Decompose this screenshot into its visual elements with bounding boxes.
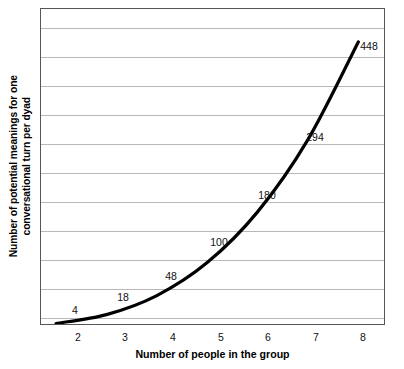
y-axis-title: Number of potential meanings for one con… <box>0 0 40 333</box>
point-value-label: 448 <box>360 40 378 52</box>
y-axis-title-line-2: conversational turn per dyad <box>20 75 33 257</box>
x-axis-tick-label: 8 <box>360 331 366 343</box>
data-curve-svg <box>41 9 385 325</box>
chart-figure: Number of potential meanings for one con… <box>0 0 404 369</box>
series-line-potential-meanings <box>56 42 358 323</box>
x-axis-tick-label: 6 <box>265 331 271 343</box>
x-axis-tick-label: 2 <box>75 331 81 343</box>
point-value-label: 4 <box>72 304 78 316</box>
x-axis-tick-labels: 2345678 <box>40 331 385 347</box>
y-axis-title-line-1: Number of potential meanings for one <box>7 75 20 257</box>
point-value-label: 100 <box>210 236 228 248</box>
x-axis-tick-label: 3 <box>122 331 128 343</box>
y-axis-title-text: Number of potential meanings for one con… <box>7 75 33 257</box>
point-value-label: 48 <box>165 270 177 282</box>
x-axis-tick-label: 5 <box>218 331 224 343</box>
point-value-label: 180 <box>258 189 276 201</box>
x-axis-tick-label: 4 <box>170 331 176 343</box>
plot-area: 41848100180294448 <box>40 8 385 325</box>
point-value-label: 294 <box>306 131 324 143</box>
x-axis-tick-label: 7 <box>313 331 319 343</box>
point-value-label: 18 <box>117 291 129 303</box>
x-axis-title: Number of people in the group <box>40 348 385 360</box>
